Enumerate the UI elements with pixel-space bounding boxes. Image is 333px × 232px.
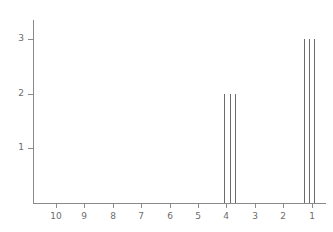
spectrum-peak (230, 94, 231, 203)
x-axis-tick-label: 6 (158, 211, 182, 221)
x-axis-tick-mark (141, 204, 142, 208)
chart-root: 123 10987654321 (0, 0, 333, 232)
x-axis-tick-mark (198, 204, 199, 208)
y-axis-line (33, 20, 34, 204)
x-axis-tick-label: 2 (271, 211, 295, 221)
y-axis-tick-mark (28, 39, 34, 40)
spectrum-peak (224, 94, 225, 203)
plot-area: 123 10987654321 (0, 0, 333, 232)
x-axis-tick-label: 3 (243, 211, 267, 221)
x-axis-tick-label: 9 (72, 211, 96, 221)
y-axis-tick-label: 2 (6, 89, 24, 98)
x-axis-tick-mark (283, 204, 284, 208)
y-axis-tick-mark (28, 94, 34, 95)
x-axis-tick-mark (113, 204, 114, 208)
x-axis-tick-mark (312, 204, 313, 208)
y-axis-tick-mark (28, 148, 34, 149)
y-axis-tick-label: 3 (6, 34, 24, 43)
x-axis-tick-mark (170, 204, 171, 208)
spectrum-peak (314, 39, 315, 203)
spectrum-peak (309, 39, 310, 203)
x-axis-tick-label: 4 (214, 211, 238, 221)
x-axis-tick-mark (56, 204, 57, 208)
x-axis-tick-label: 7 (129, 211, 153, 221)
x-axis-tick-mark (226, 204, 227, 208)
x-axis-tick-label: 10 (44, 211, 68, 221)
x-axis-tick-mark (84, 204, 85, 208)
y-axis-tick-label: 1 (6, 143, 24, 152)
x-axis-tick-label: 1 (300, 211, 324, 221)
spectrum-peak (235, 94, 236, 203)
x-axis-tick-label: 8 (101, 211, 125, 221)
x-axis-tick-label: 5 (186, 211, 210, 221)
spectrum-peak (304, 39, 305, 203)
x-axis-tick-mark (255, 204, 256, 208)
